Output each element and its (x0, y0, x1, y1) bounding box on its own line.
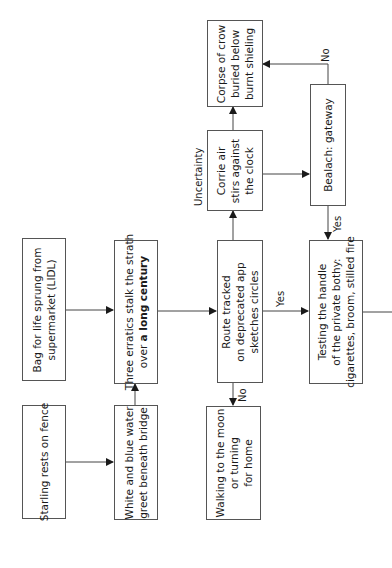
edge-label-bealach-yes: Yes (332, 216, 343, 232)
node-testing-text: Testing the handle of the private bothy:… (315, 236, 357, 388)
node-route-text: Route tracked on deprecated app sketches… (219, 262, 261, 361)
node-bealach-text: Bealach: gateway (321, 98, 335, 192)
node-bag-text: Bag for life sprung from supermarket (LI… (30, 247, 58, 372)
node-corrie-air: Corrie air stirs against the clock (207, 130, 263, 211)
edge-label-route-no: No (237, 388, 248, 402)
edge-label-route-yes: Yes (275, 291, 286, 307)
node-bealach-gateway: Bealach: gateway (310, 84, 346, 206)
edge-label-bealach-no: No (320, 48, 331, 62)
node-starling: Starling rests on fence (22, 405, 66, 519)
edge-bealach-corpse (263, 64, 328, 84)
node-white-blue-water: White and blue water greet beneath bridg… (114, 405, 158, 520)
edge-label-uncertainty: Uncertainty (193, 148, 204, 206)
node-white-blue-text: White and blue water greet beneath bridg… (122, 406, 150, 519)
node-three-erratics: Three erratics stalk the strath over a l… (114, 240, 158, 384)
node-starling-text: Starling rests on fence (37, 403, 51, 521)
node-testing-handle: Testing the handle of the private bothy:… (309, 240, 363, 384)
node-walking-to-moon: Walking to the moon or turning for home (206, 406, 261, 520)
node-bag-for-life: Bag for life sprung from supermarket (LI… (22, 238, 66, 381)
node-route-tracked: Route tracked on deprecated app sketches… (217, 240, 263, 383)
node-walking-text: Walking to the moon or turning for home (213, 409, 255, 518)
node-corrie-text: Corrie air stirs against the clock (214, 138, 256, 202)
flowchart-canvas: Starling rests on fence Bag for life spr… (0, 0, 392, 568)
node-corpse-of-crow: Corpse of crow buried below burnt shieli… (207, 20, 263, 107)
node-erratics-text: Three erratics stalk the strath over a l… (122, 234, 150, 390)
node-corpse-text: Corpse of crow buried below burnt shieli… (214, 24, 256, 102)
